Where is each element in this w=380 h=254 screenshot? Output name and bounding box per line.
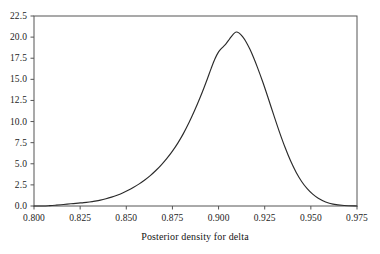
y-axis-tick-label: 7.5 — [0, 138, 27, 148]
y-axis-tick-label: 5.0 — [0, 159, 27, 169]
y-axis-tick-label: 17.5 — [0, 53, 27, 63]
x-axis-tick-label: 0.875 — [161, 213, 183, 223]
y-axis-tick-label: 10.0 — [0, 117, 27, 127]
chart-figure: 0.02.55.07.510.012.515.017.520.022.5 0.8… — [0, 0, 380, 254]
x-axis-tick-label: 0.900 — [208, 213, 230, 223]
x-axis-tick-label: 0.800 — [23, 213, 45, 223]
y-axis-ticks — [31, 16, 35, 206]
y-axis-tick-label: 22.5 — [0, 11, 27, 21]
x-axis-tick-label: 0.850 — [115, 213, 137, 223]
y-axis-tick-label: 0.0 — [0, 201, 27, 211]
x-axis-tick-label: 0.950 — [300, 213, 322, 223]
x-axis-tick-label: 0.925 — [254, 213, 276, 223]
x-axis-tick-label: 0.975 — [346, 213, 368, 223]
plot-frame — [34, 16, 357, 206]
x-axis-title: Posterior density for delta — [141, 231, 249, 242]
plot-canvas — [0, 0, 380, 254]
y-axis-tick-label: 12.5 — [0, 95, 27, 105]
y-axis-tick-label: 2.5 — [0, 180, 27, 190]
y-axis-tick-label: 20.0 — [0, 32, 27, 42]
density-curve — [34, 32, 357, 206]
x-axis-ticks — [34, 206, 357, 210]
x-axis-tick-label: 0.825 — [69, 213, 91, 223]
y-axis-tick-label: 15.0 — [0, 74, 27, 84]
